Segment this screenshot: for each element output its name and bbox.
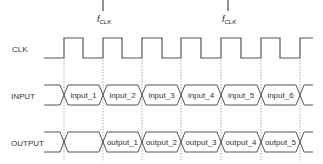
input-bus-value: input_6 (267, 91, 294, 100)
output-bus-value: output_4 (225, 138, 257, 147)
signal-label-output: OUTPUT (11, 139, 44, 148)
output-bus-value: output_3 (185, 138, 217, 147)
output-bus-value: output_2 (146, 138, 178, 147)
input-bus-value: input_3 (148, 91, 175, 100)
timing-diagram: fCLKfCLKinput_1input_2input_3input_4inpu… (0, 0, 323, 164)
input-bus-value: input_1 (70, 91, 97, 100)
input-bus-value: input_5 (228, 91, 255, 100)
fclk-label: fCLK (222, 14, 237, 25)
input-bus-value: input_4 (188, 91, 215, 100)
clk-waveform (44, 38, 313, 58)
output-bus-value: output_1 (107, 138, 139, 147)
signal-label-clk: CLK (12, 45, 28, 54)
signal-label-input: INPUT (11, 92, 35, 101)
input-bus-value: input_2 (109, 91, 136, 100)
fclk-label: fCLK (97, 14, 112, 25)
timing-diagram-canvas: fCLKfCLKinput_1input_2input_3input_4inpu… (0, 0, 323, 164)
output-bus-value: output_5 (265, 138, 297, 147)
